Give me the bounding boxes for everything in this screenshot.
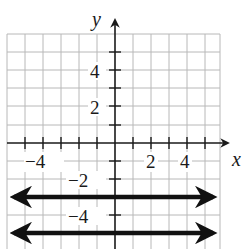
y-tick-label-neg4: −4: [68, 206, 89, 227]
y-tick-label-2: 2: [90, 97, 100, 118]
y-axis: [109, 20, 121, 249]
y-tick-label-4: 4: [90, 61, 100, 82]
grid: [7, 34, 220, 249]
y-tick-label-neg2: −2: [68, 170, 88, 191]
tick-labels: 4 2 −2 −4 −4 2 4: [24, 61, 192, 227]
coordinate-plane: 4 2 −2 −4 −4 2 4 x y: [0, 0, 251, 249]
x-tick-label-2: 2: [146, 151, 156, 172]
x-tick-label-4: 4: [180, 151, 190, 172]
x-tick-label-neg4: −4: [25, 151, 46, 172]
y-axis-label: y: [90, 8, 101, 31]
x-axis-label: x: [231, 148, 241, 170]
x-axis: [7, 137, 228, 149]
